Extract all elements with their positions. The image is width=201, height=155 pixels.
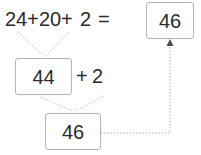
total-box[interactable]: 46 bbox=[45, 113, 101, 150]
equation-term3: 2 bbox=[80, 9, 91, 29]
partial-sum-box[interactable]: 44 bbox=[15, 58, 72, 95]
connector-term1-to-sum bbox=[18, 32, 44, 56]
result-box[interactable]: 46 bbox=[146, 2, 194, 39]
equation-plus1: + bbox=[27, 9, 39, 29]
step1-plus-sign: + bbox=[76, 66, 88, 86]
total-value: 46 bbox=[62, 122, 84, 142]
connector-total-to-result bbox=[101, 45, 170, 133]
connector-addend-to-total bbox=[75, 96, 104, 111]
connector-sum-to-total bbox=[41, 97, 72, 111]
connector-term2-to-sum bbox=[46, 32, 69, 56]
equation-term2: 20 bbox=[39, 9, 61, 29]
equation-term1: 24 bbox=[5, 9, 27, 29]
arrowhead-icon bbox=[167, 39, 174, 46]
diagram-canvas: 24 + 20 + 2 = 46 44 + 2 46 bbox=[0, 0, 201, 155]
step1-addend: 2 bbox=[92, 66, 103, 86]
equation-equals-sign: = bbox=[98, 9, 110, 29]
partial-sum-value: 44 bbox=[32, 67, 54, 87]
result-value: 46 bbox=[159, 11, 181, 31]
equation-plus2: + bbox=[61, 9, 73, 29]
